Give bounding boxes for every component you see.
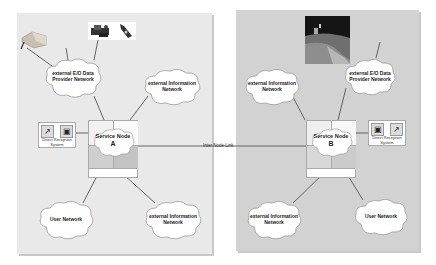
cloud-user-a: User Network — [36, 198, 96, 240]
node-footer — [307, 168, 355, 177]
service-node-letter: A — [89, 140, 137, 147]
cloud-label-line2: Network — [244, 219, 304, 225]
cloud-ext-info-bottom-b: external Information Network — [244, 198, 304, 240]
service-node-letter: B — [307, 140, 355, 147]
link-eo-to-node-a — [94, 96, 104, 120]
inter-node-link-label: Inter Node Link — [203, 143, 234, 148]
cloud-ext-info-bottom-a: external Information Network — [142, 198, 204, 240]
computer-equipment-image — [88, 22, 136, 40]
service-node-title: Service Node — [307, 133, 355, 140]
cloud-ext-info-top-b: external Information Network — [242, 66, 302, 106]
cloud-user-b: User Network — [352, 196, 410, 236]
cloud-label-line2: Network — [142, 219, 204, 225]
node-footer — [89, 168, 137, 177]
service-node-a: Service Node A — [88, 120, 138, 178]
cloud-eo-provider-b: external E/O Data Provider Network — [342, 56, 398, 96]
direct-reception-system-a: ↗ ▣ Direct Reception System — [38, 122, 76, 148]
drs-label-line2: System — [39, 142, 75, 147]
service-node-b: Service Node B — [306, 120, 356, 178]
equipment-images — [88, 22, 136, 40]
direct-reception-system-b: ▣ ↗ Direct Reception System — [368, 120, 406, 146]
cloud-label-line2: Provider Network — [342, 76, 398, 82]
cloud-ext-info-top-a: external Information Network — [141, 66, 203, 106]
drs-label-line2: System — [369, 140, 405, 145]
satellite-image — [18, 28, 48, 50]
cloud-label-line2: Network — [242, 86, 302, 92]
cloud-label-line1: User Network — [352, 213, 410, 219]
cloud-label-line2: Provider Network — [42, 76, 104, 82]
cloud-label-line2: Network — [141, 86, 203, 92]
cloud-eo-provider-a: external E/O Data Provider Network — [42, 55, 104, 99]
cloud-label-line1: User Network — [36, 216, 96, 222]
service-node-title: Service Node — [89, 133, 137, 140]
